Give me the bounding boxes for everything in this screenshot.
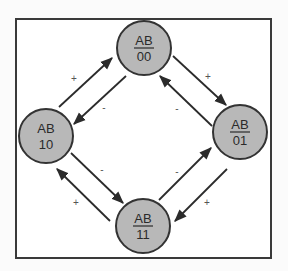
edge-sign-label: - [100, 164, 103, 175]
state-node-10: AB10 [19, 109, 73, 163]
node-circle [19, 109, 73, 163]
node-value: 00 [137, 49, 151, 64]
edge-sign-label: + [73, 197, 79, 208]
node-value: 11 [136, 227, 150, 242]
node-header: AB [37, 121, 54, 136]
node-header: AB [135, 33, 152, 48]
edge-sign-label: - [175, 103, 178, 114]
edge-sign-label: - [102, 102, 105, 113]
node-header: AB [231, 117, 248, 132]
state-node-11: AB11 [116, 199, 170, 253]
edge-sign-label: + [204, 197, 210, 208]
node-value: 01 [233, 133, 247, 148]
state-diagram: +-+--+-+ AB00AB10AB01AB11 [0, 0, 288, 271]
edge-sign-label: + [205, 71, 211, 82]
state-node-00: AB00 [117, 21, 171, 75]
state-node-01: AB01 [213, 105, 267, 159]
edge-sign-label: - [175, 166, 178, 177]
edge-sign-label: + [71, 73, 77, 84]
node-value: 10 [39, 137, 53, 152]
node-header: AB [134, 211, 151, 226]
